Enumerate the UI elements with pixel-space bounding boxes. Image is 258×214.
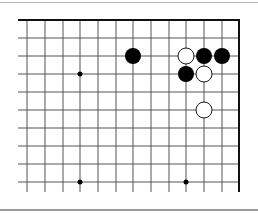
black-stone: [214, 48, 230, 64]
stones: [125, 48, 230, 118]
black-stone: [178, 66, 194, 82]
star-point: [78, 72, 83, 77]
white-stone: [178, 48, 194, 64]
go-board: [0, 0, 258, 214]
white-stone: [196, 102, 212, 118]
black-stone: [125, 48, 141, 64]
black-stone: [196, 48, 212, 64]
star-point: [78, 180, 83, 185]
star-point: [184, 180, 189, 185]
white-stone: [196, 66, 212, 82]
